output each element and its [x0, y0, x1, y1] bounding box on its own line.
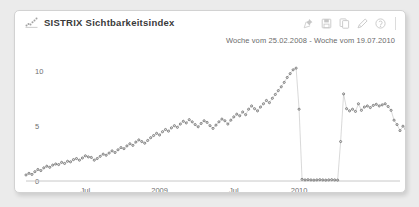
chart-area: 0510Jul2009Jul2010: [15, 51, 406, 193]
card-toolbar: [303, 17, 396, 30]
save-icon[interactable]: [321, 18, 332, 29]
sistrix-visibility-index-card: SISTRIX Sichtbarkeitsindex: [14, 10, 406, 193]
series-markers: [25, 67, 406, 181]
pin-icon[interactable]: [303, 18, 314, 29]
card-title-group: SISTRIX Sichtbarkeitsindex: [25, 17, 175, 28]
y-axis-tick-label: 10: [35, 67, 43, 76]
y-axis-tick-label: 5: [35, 122, 39, 131]
copy-icon[interactable]: [339, 18, 350, 29]
x-axis-tick-label: 2009: [151, 186, 168, 193]
screenshot-root: SISTRIX Sichtbarkeitsindex: [0, 0, 419, 207]
visibility-index-chart: 0510Jul2009Jul2010: [15, 51, 406, 193]
card-header: SISTRIX Sichtbarkeitsindex: [15, 11, 405, 38]
scatter-chart-icon: [25, 17, 38, 28]
x-axis-tick-label: Jul: [81, 186, 91, 193]
toolbar-divider: [395, 17, 396, 30]
x-axis-tick-label: Jul: [229, 186, 239, 193]
edit-icon[interactable]: [357, 18, 368, 29]
page-title: SISTRIX Sichtbarkeitsindex: [44, 17, 175, 28]
help-icon[interactable]: [375, 18, 386, 29]
date-range-label: Woche vom 25.02.2008 - Woche vom 19.07.2…: [226, 36, 395, 45]
x-axis-tick-label: 2010: [291, 186, 308, 193]
